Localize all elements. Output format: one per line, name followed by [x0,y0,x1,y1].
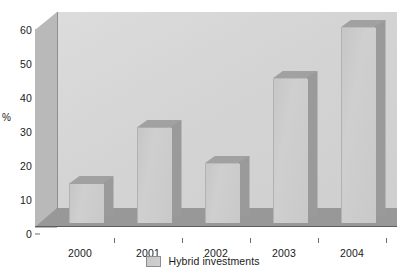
bar-side-face [103,176,114,216]
x-axis-tick-mark [318,238,319,243]
bar-side-face [307,71,318,217]
bar-side-face [171,120,182,216]
bar-front-face [341,28,376,224]
bar-front-face [273,79,308,224]
y-axis-tick-label: 50 [0,58,32,70]
legend-entry-label: Hybrid investments [168,255,259,267]
y-axis-tick-label: 0 [0,228,32,240]
y-axis-label: % [2,112,11,123]
x-axis-line [35,226,397,227]
bar-2001 [137,120,171,223]
plot-area [35,12,397,227]
x-axis-tick-mark [114,238,115,243]
chart-figure: % 0102030405060 20002001200220032004 Hyb… [0,0,406,276]
y-axis-tick-label: 40 [0,92,32,104]
bar-front-face [205,164,240,224]
y-axis-line [57,12,58,210]
chart-legend: Hybrid investments [0,255,406,267]
bar-side-face [239,156,250,217]
y-axis-tick-label: 10 [0,194,32,206]
plot-left-wall [35,12,57,228]
bar-2004 [341,20,375,224]
x-axis-tick-mark [250,238,251,243]
bar-side-face [375,20,386,217]
bar-2000 [69,176,103,223]
y-axis-tick-label: 30 [0,126,32,138]
x-axis-tick-mark [386,238,387,243]
y-axis-tick-label: 20 [0,160,32,172]
y-axis-tick-mark [35,234,40,235]
bar-2002 [205,156,239,224]
y-axis-tick-label: 60 [0,24,32,36]
x-axis-tick-mark [182,238,183,243]
legend-swatch-icon [146,256,161,267]
bar-2003 [273,71,307,224]
bar-front-face [137,128,172,223]
bar-front-face [69,184,104,223]
